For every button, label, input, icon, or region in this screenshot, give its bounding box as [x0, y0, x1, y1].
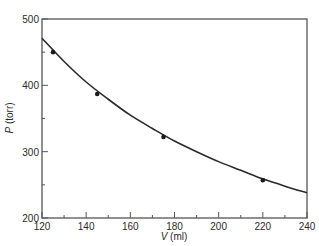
y-tick-label: 300 — [22, 147, 39, 158]
data-points — [51, 50, 265, 183]
data-point-marker — [95, 92, 100, 97]
data-point-marker — [161, 135, 166, 140]
data-point-marker — [261, 178, 266, 183]
y-tick-label: 500 — [22, 14, 39, 25]
axes-box — [42, 19, 307, 218]
curve-path — [42, 38, 307, 193]
tick-labels: 120140160180200220240200300400500 — [22, 14, 315, 232]
y-tick-label: 200 — [22, 213, 39, 224]
x-tick-label: 160 — [122, 221, 139, 232]
y-axis-label: P (torr) — [4, 102, 15, 133]
y-tick-label: 400 — [22, 80, 39, 91]
x-tick-label: 200 — [210, 221, 227, 232]
x-axis-label: V (ml) — [161, 231, 188, 242]
x-tick-label: 240 — [299, 221, 316, 232]
axes-frame — [42, 19, 307, 218]
x-tick-label: 140 — [78, 221, 95, 232]
plot-area: 120140160180200220240200300400500 V (ml)… — [0, 0, 319, 246]
data-point-marker — [51, 50, 56, 55]
x-tick-label: 220 — [254, 221, 271, 232]
fitted-curve — [42, 38, 307, 193]
pressure-volume-chart: 120140160180200220240200300400500 V (ml)… — [0, 0, 319, 246]
tick-marks — [42, 19, 307, 218]
